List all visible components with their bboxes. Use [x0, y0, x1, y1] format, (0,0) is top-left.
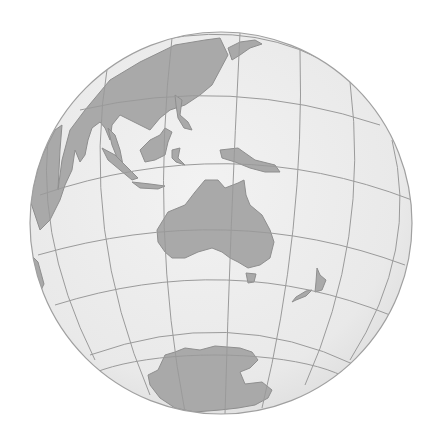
globe-map — [0, 0, 438, 441]
globe-svg — [0, 0, 438, 441]
